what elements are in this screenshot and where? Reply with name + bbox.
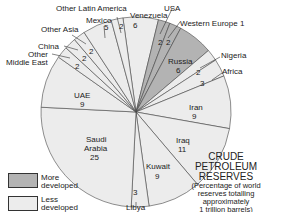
- chart-title: CRUDE PETROLEUM RESERVES: [191, 152, 261, 182]
- legend-swatch-more-developed: [8, 173, 38, 188]
- value-usa: 2: [158, 39, 162, 47]
- label-other-asia: Other Asia: [41, 26, 78, 34]
- label-iraq: Iraq: [176, 137, 190, 145]
- label-africa: Africa: [222, 68, 242, 76]
- label-saudi-2: Arabia: [84, 145, 107, 153]
- label-libya: Libya: [126, 204, 145, 212]
- legend-label-less-2: developed: [41, 204, 78, 212]
- value-africa: 3: [200, 80, 204, 88]
- label-saudi-1: Saudi: [86, 136, 106, 144]
- chart-subtitle: (Percentage of world reserves totalling …: [186, 182, 266, 212]
- pie-slice-saudi-arabia: [41, 107, 136, 207]
- value-libya: 3: [133, 189, 137, 197]
- value-uae: 9: [80, 101, 84, 109]
- label-other-middle-east-2: Middle East: [6, 59, 48, 67]
- legend-label-more-2: developed: [41, 182, 78, 190]
- label-other-latin-america: Other Latin America: [56, 5, 127, 13]
- value-other-middle-east: 2: [75, 63, 79, 71]
- value-other-latin-america: 2: [119, 23, 123, 31]
- value-iran: 9: [192, 113, 196, 121]
- label-kuwait: Kuwait: [146, 163, 170, 171]
- value-iraq: 11: [178, 146, 186, 154]
- value-saudi: 25: [90, 154, 99, 162]
- label-russia: Russia: [168, 58, 192, 66]
- value-mexico: 5: [104, 24, 108, 32]
- value-russia: 6: [176, 67, 180, 75]
- value-kuwait: 9: [155, 173, 159, 181]
- label-venezuela: Venezuela: [130, 12, 167, 20]
- value-china: 2: [82, 55, 86, 63]
- label-western-europe: Western Europe 1: [180, 20, 244, 28]
- value-nigeria: 2: [196, 69, 200, 77]
- legend-swatch-less-developed: [8, 196, 38, 211]
- value-other-asia: 2: [89, 48, 93, 56]
- label-nigeria: Nigeria: [221, 52, 246, 60]
- value-western-europe: 2: [166, 39, 170, 47]
- value-venezuela: 6: [133, 22, 137, 30]
- subtitle-line: 1 trillion barrels): [186, 206, 266, 212]
- label-uae: UAE: [74, 92, 90, 100]
- label-iran: Iran: [189, 104, 203, 112]
